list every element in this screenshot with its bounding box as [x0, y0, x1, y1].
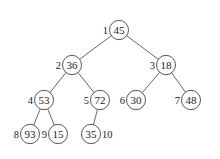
- node-value: 35: [86, 128, 98, 140]
- tree-node-9: 159: [42, 124, 68, 143]
- edge-3-6: [142, 72, 160, 93]
- tree-node-1: 451: [103, 20, 129, 39]
- node-value: 53: [39, 94, 51, 106]
- node-value: 36: [67, 59, 79, 71]
- node-value: 18: [161, 59, 173, 71]
- edge-3-7: [172, 73, 186, 93]
- tree-node-3: 183: [150, 55, 176, 74]
- node-value: 15: [53, 128, 65, 140]
- node-index-label: 8: [14, 129, 19, 140]
- node-index-label: 7: [175, 95, 180, 106]
- tree-node-10: 3510: [82, 124, 113, 143]
- tree-node-2: 362: [56, 55, 82, 74]
- edge-2-5: [78, 72, 94, 92]
- node-index-label: 9: [42, 129, 47, 140]
- node-index-label: 1: [103, 25, 108, 36]
- node-index-label: 3: [150, 60, 155, 71]
- node-index-label: 5: [84, 95, 89, 106]
- node-value: 48: [186, 94, 198, 106]
- edge-4-8: [34, 109, 41, 125]
- binary-tree-diagram: 4513621835347253064879381593510: [0, 0, 220, 159]
- edges-group: [34, 36, 186, 126]
- tree-node-4: 534: [28, 90, 54, 109]
- node-value: 93: [25, 128, 37, 140]
- edge-2-4: [50, 72, 66, 92]
- node-index-label: 2: [56, 60, 61, 71]
- node-value: 45: [114, 24, 126, 36]
- edge-5-10: [93, 109, 97, 125]
- node-value: 72: [95, 94, 106, 106]
- edge-1-2: [80, 36, 112, 60]
- node-value: 30: [131, 94, 143, 106]
- tree-node-8: 938: [14, 124, 40, 143]
- edge-4-9: [48, 109, 55, 125]
- tree-svg: 4513621835347253064879381593510: [0, 0, 220, 159]
- node-index-label: 6: [120, 95, 125, 106]
- tree-node-6: 306: [120, 90, 146, 109]
- tree-node-5: 725: [84, 90, 110, 109]
- node-index-label: 4: [28, 95, 34, 106]
- node-index-label: 10: [102, 129, 113, 140]
- tree-node-7: 487: [175, 90, 201, 109]
- edge-1-3: [127, 36, 159, 60]
